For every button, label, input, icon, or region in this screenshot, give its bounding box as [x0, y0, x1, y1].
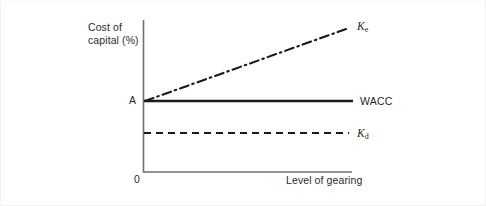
chart-plot-area	[0, 0, 486, 206]
series-label-ke: Ke	[357, 20, 368, 34]
y-axis-label-line-2: capital (%)	[88, 34, 140, 47]
point-a-label: A	[129, 94, 136, 107]
series-label-ke-subscript: e	[365, 25, 369, 34]
series-label-wacc: WACC	[360, 95, 393, 107]
series-label-ke-symbol: K	[357, 20, 365, 32]
y-axis-label: Cost of capital (%)	[88, 21, 140, 46]
series-label-kd-symbol: K	[357, 127, 365, 139]
x-axis-label: Level of gearing	[286, 174, 362, 187]
origin-tick-label: 0	[134, 173, 140, 186]
series-label-kd-subscript: d	[365, 132, 369, 141]
chart-figure: Cost of capital (%) Level of gearing 0 A…	[0, 0, 486, 206]
series-label-kd: Kd	[357, 127, 369, 141]
y-axis-label-line-1: Cost of	[88, 21, 140, 34]
series-line-ke	[145, 28, 349, 101]
